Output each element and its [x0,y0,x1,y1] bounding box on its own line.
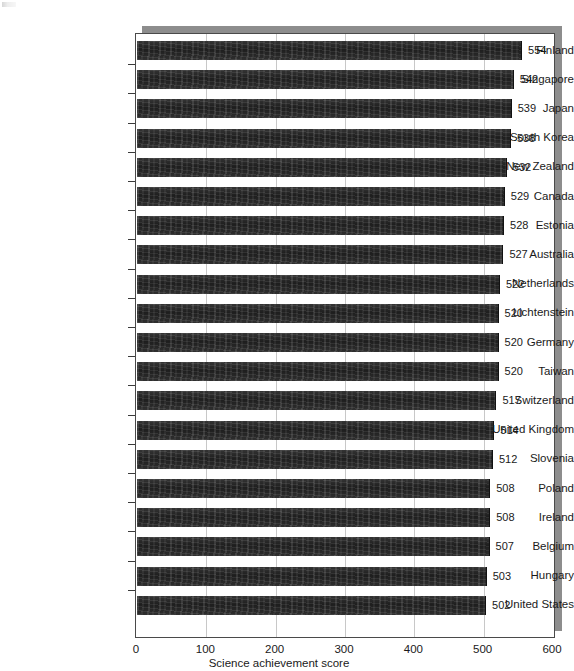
bar-finland [137,41,522,60]
x-axis-title: Science achievement score [40,657,574,669]
category-label-ireland: Ireland [482,510,574,524]
category-label-south-korea: South Korea [482,130,574,144]
y-axis-tick [128,327,135,328]
bar-singapore [137,70,514,89]
bar-japan [137,99,512,118]
y-axis-tick [128,444,135,445]
bar-germany [137,333,499,352]
category-label-germany: Germany [482,335,574,349]
bar-taiwan [137,362,499,381]
y-axis-tick [128,561,135,562]
bar-slovenia [137,450,493,469]
y-axis-tick [128,531,135,532]
y-axis-tick [128,590,135,591]
bar-canada [137,187,505,206]
bar-south-korea [137,129,511,148]
x-tick-label-400: 400 [404,642,423,656]
category-label-singapore: Singapore [482,72,574,86]
x-axis-tick-labels: 0100200300400500600 [40,642,574,658]
y-axis-tick [128,181,135,182]
bar-australia [137,245,503,264]
bar-poland [137,479,490,498]
y-axis-tick [128,152,135,153]
category-label-australia: Australia [482,247,574,261]
category-label-poland: Poland [482,481,574,495]
science-achievement-bar-chart: 5545425395385325295285275225205205205175… [40,16,574,671]
x-tick-label-200: 200 [265,642,284,656]
bar-united-states [137,596,486,615]
bar-lichtenstein [137,304,499,323]
category-label-united-states: United States [482,597,574,611]
bar-estonia [137,216,504,235]
y-axis-tick [128,210,135,211]
x-axis-title-text: Science achievement score [209,657,350,669]
y-axis-tick [128,415,135,416]
bar-hungary [137,567,487,586]
category-label-taiwan: Taiwan [482,364,574,378]
bar-ireland [137,508,490,527]
y-axis-tick [128,356,135,357]
x-tick-label-600: 600 [542,642,561,656]
bar-belgium [137,537,490,556]
y-axis-tick [128,298,135,299]
y-axis-tick [128,502,135,503]
y-axis-tick [128,239,135,240]
category-label-new-zealand: New Zealand [482,159,574,173]
category-label-netherlands: Netherlands [482,276,574,290]
category-label-united-kingdom: United Kingdom [482,422,574,436]
bar-netherlands [137,275,500,294]
category-label-estonia: Estonia [482,218,574,232]
category-label-finland: Finland [482,43,574,57]
y-axis-tick [128,123,135,124]
category-label-slovenia: Slovenia [482,451,574,465]
x-tick-label-300: 300 [334,642,353,656]
bar-united-kingdom [137,421,494,440]
scan-artifact [2,2,16,7]
category-label-switzerland: Switzerland [482,393,574,407]
category-label-hungary: Hungary [482,568,574,582]
x-tick-label-100: 100 [196,642,215,656]
bar-switzerland [137,391,496,410]
category-label-japan: Japan [482,101,574,115]
x-tick-label-0: 0 [133,642,139,656]
y-axis-tick [128,64,135,65]
x-tick-label-500: 500 [473,642,492,656]
bar-new-zealand [137,158,507,177]
y-axis-tick [128,473,135,474]
y-axis-tick [128,93,135,94]
y-axis-tick [128,385,135,386]
y-axis-tick [128,269,135,270]
category-label-belgium: Belgium [482,539,574,553]
category-label-lichtenstein: Lichtenstein [482,305,574,319]
category-label-canada: Canada [482,189,574,203]
